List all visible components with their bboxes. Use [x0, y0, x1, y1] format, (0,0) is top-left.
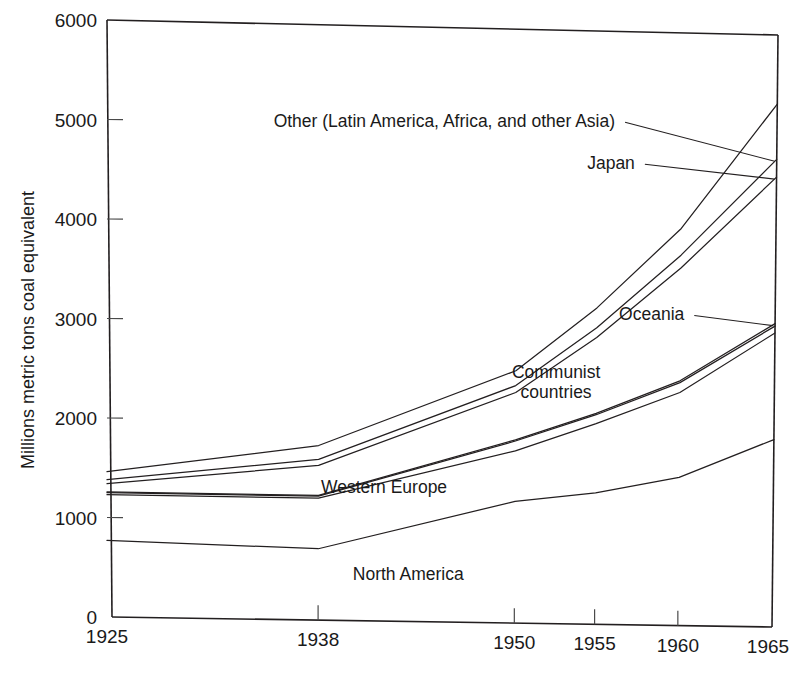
series-line-total [107, 104, 777, 472]
series-line-western-europe [107, 333, 775, 498]
y-tick-label-5000: 5000 [55, 110, 97, 131]
y-tick-label-3000: 3000 [55, 309, 97, 330]
series-inline-labels: North AmericaWestern EuropeCommunistcoun… [274, 111, 685, 584]
leader-line-japan [645, 164, 775, 179]
y-axis-title: Millions metric tons coal equivalent [18, 191, 38, 469]
x-tick-label-1960: 1960 [657, 635, 699, 656]
x-axis-line [112, 617, 772, 627]
y-axis-tick-labels: 0100020003000400050006000 [55, 10, 97, 628]
leader-line-oceania [694, 315, 773, 325]
chart-figure: Millions metric tons coal equivalent 010… [0, 0, 803, 674]
x-tick-label-1925: 1925 [86, 626, 128, 647]
y-tick-label-0: 0 [86, 607, 97, 628]
right-border-line [772, 35, 778, 627]
x-tick-label-1955: 1955 [573, 633, 615, 654]
x-tick-label-1965: 1965 [747, 636, 789, 657]
y-tick-label-4000: 4000 [55, 209, 97, 230]
top-border-line [107, 20, 778, 35]
series-label-north-america: North America [353, 564, 464, 584]
series-line-japan [107, 177, 777, 484]
series-label-communist-countries: Communistcountries [512, 362, 601, 402]
series-label-other-latin-america-africa-and-other-asia: Other (Latin America, Africa, and other … [274, 111, 615, 131]
chart-canvas: Millions metric tons coal equivalent 010… [0, 0, 803, 674]
series-label-western-europe: Western Europe [321, 477, 447, 497]
series-label-japan: Japan [587, 153, 635, 173]
y-tick-label-6000: 6000 [55, 10, 97, 31]
x-tick-label-1950: 1950 [493, 632, 535, 653]
x-tick-label-1938: 1938 [297, 629, 339, 650]
series-label-oceania: Oceania [619, 304, 684, 324]
y-tick-label-2000: 2000 [55, 408, 97, 429]
y-axis-ticks [107, 120, 123, 518]
y-tick-label-1000: 1000 [55, 508, 97, 529]
x-axis-tick-labels: 192519381950195519601965 [86, 626, 789, 657]
leader-line-other-latin-america-africa-and-other-asia [625, 122, 775, 161]
